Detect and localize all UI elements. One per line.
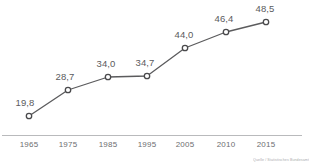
- data-point-marker: [263, 19, 268, 24]
- x-tick-label-1985: 1985: [99, 140, 118, 149]
- data-point-marker: [105, 74, 110, 79]
- x-tick-label-1975: 1975: [59, 140, 78, 149]
- x-tick-label-2015: 2015: [257, 140, 276, 149]
- data-point-marker: [182, 45, 187, 50]
- x-tick-label-2005: 2005: [176, 140, 195, 149]
- x-tick-label-1965: 1965: [20, 140, 39, 149]
- data-point-marker: [223, 29, 228, 34]
- x-tick-label-2010: 2010: [217, 140, 236, 149]
- x-tick-label-1995: 1995: [138, 140, 157, 149]
- data-point-marker: [65, 87, 70, 92]
- data-series-line: [29, 22, 266, 116]
- data-point-marker: [26, 113, 31, 118]
- data-point-marker: [144, 73, 149, 78]
- line-chart: 19,8 28,7 34,0 34,7 44,0 46,4 48,5 1965 …: [0, 0, 313, 164]
- source-note: Quelle / Statistisches Bundesamt: [253, 158, 309, 163]
